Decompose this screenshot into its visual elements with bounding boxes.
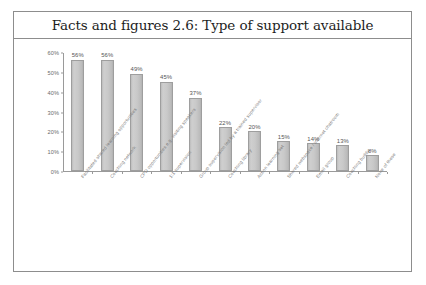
plot-wrapper: 0%10%20%30%40%50%60% 56%56%49%45%37%22%2… [14, 39, 411, 272]
y-axis-tick-label: 0% [51, 169, 59, 175]
x-axis-tick-mark [151, 172, 152, 174]
bar-value-label: 45% [160, 74, 172, 80]
bar-item[interactable]: 56% [71, 52, 84, 171]
page-title: Facts and figures 2.6: Type of support a… [52, 17, 374, 33]
bar-value-label: 15% [278, 134, 290, 140]
bar[interactable] [71, 60, 84, 171]
y-axis-tick-label: 10% [48, 149, 60, 155]
bar-value-label: 56% [72, 52, 84, 58]
bar-value-label: 56% [101, 52, 113, 58]
y-axis-tick-label: 20% [48, 129, 60, 135]
bar-value-label: 20% [248, 124, 260, 130]
x-axis-tick-mark [122, 172, 123, 174]
x-axis-tick-mark [92, 172, 93, 174]
y-axis-tick-label: 60% [48, 50, 60, 56]
y-axis-tick-label: 30% [48, 110, 60, 116]
x-axis-tick-mark [240, 172, 241, 174]
bar-value-label: 22% [219, 120, 231, 126]
bar[interactable] [366, 155, 379, 171]
y-axis-tick-mark [61, 72, 63, 73]
bar-value-label: 13% [337, 138, 349, 144]
bar-value-label: 49% [131, 66, 143, 72]
figure-container: Facts and figures 2.6: Type of support a… [13, 11, 412, 272]
x-axis-tick-mark [328, 172, 329, 174]
bar[interactable] [336, 145, 349, 171]
y-axis-line [63, 53, 64, 172]
x-axis-tick-mark [210, 172, 211, 174]
bar-item[interactable]: 13% [336, 52, 349, 171]
y-axis-tick-mark [61, 132, 63, 133]
x-axis-tick-mark [181, 172, 182, 174]
y-axis-tick-label: 40% [48, 90, 60, 96]
y-axis-tick-mark [61, 92, 63, 93]
x-axis-tick-mark [387, 172, 388, 174]
x-axis-tick-mark [358, 172, 359, 174]
figure-title-bar: Facts and figures 2.6: Type of support a… [14, 12, 411, 39]
y-axis-tick-mark [61, 172, 63, 173]
y-axis-tick-label: 50% [48, 70, 60, 76]
x-axis-tick-mark [299, 172, 300, 174]
y-axis-tick-mark [61, 53, 63, 54]
bar-value-label: 37% [189, 90, 201, 96]
x-axis-tick-mark [269, 172, 270, 174]
bar[interactable] [130, 74, 143, 171]
y-axis-tick-mark [61, 152, 63, 153]
bar[interactable] [160, 82, 173, 171]
y-axis-tick-mark [61, 112, 63, 113]
